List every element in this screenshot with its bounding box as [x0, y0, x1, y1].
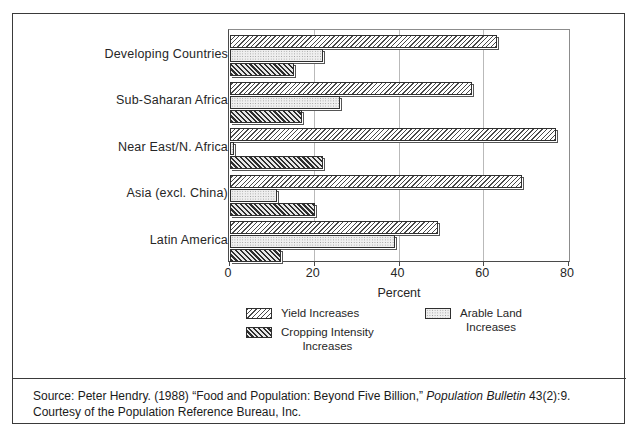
bar	[230, 221, 441, 234]
bar-fill	[230, 175, 522, 188]
source-line-1: Source: Peter Hendry. (1988) “Food and P…	[33, 389, 613, 405]
bar-fill	[230, 96, 340, 109]
bar-group	[229, 128, 569, 171]
bar	[230, 142, 237, 155]
bar-group	[229, 35, 569, 78]
legend-swatch	[246, 327, 272, 338]
bar-fill	[230, 82, 472, 95]
bar-fill	[230, 203, 315, 216]
tick-label-60: 60	[475, 266, 489, 280]
bar-fill	[230, 249, 281, 262]
legend-item: Yield Increases	[246, 306, 374, 320]
legend-item: Cropping Intensity Increases	[246, 325, 374, 353]
bar	[230, 96, 343, 109]
bar-fill	[230, 128, 556, 141]
bar-fill	[230, 221, 438, 234]
bar-group	[229, 221, 569, 264]
source-divider	[13, 378, 626, 379]
source-line-2: Courtesy of the Population Reference Bur…	[33, 405, 613, 421]
legend-label: Arable Land Increases	[460, 306, 522, 334]
category-label: Developing Countries	[18, 47, 228, 61]
bar	[230, 63, 297, 76]
legend-column-right: Arable Land Increases	[425, 306, 522, 339]
source-line-1-suffix: 43(2):9.	[526, 389, 571, 403]
legend-label: Cropping Intensity Increases	[281, 325, 374, 353]
legend-swatch	[425, 308, 451, 319]
bar	[230, 35, 500, 48]
bar-group	[229, 175, 569, 218]
legend-column-left: Yield IncreasesCropping Intensity Increa…	[246, 306, 374, 358]
plot-frame	[228, 29, 570, 262]
bar	[230, 82, 475, 95]
bar-fill	[230, 110, 302, 123]
bar-group	[229, 82, 569, 125]
source-note: Source: Peter Hendry. (1988) “Food and P…	[33, 389, 613, 420]
category-label: Sub-Saharan Africa	[18, 93, 228, 107]
bar	[230, 235, 398, 248]
chart-plot-region: Developing CountriesSub-Saharan AfricaNe…	[13, 14, 626, 304]
bar	[230, 110, 305, 123]
tick-label-20: 20	[306, 266, 320, 280]
bar-fill	[230, 35, 497, 48]
x-axis-title: Percent	[228, 286, 570, 300]
figure-container: Developing CountriesSub-Saharan AfricaNe…	[12, 13, 625, 424]
bar	[230, 203, 318, 216]
bar	[230, 49, 326, 62]
tick-label-80: 80	[560, 266, 574, 280]
tick-label-40: 40	[391, 266, 405, 280]
bar-fill	[230, 156, 323, 169]
bar	[230, 189, 280, 202]
bar-fill	[230, 142, 234, 155]
category-axis-labels: Developing CountriesSub-Saharan AfricaNe…	[15, 14, 228, 264]
legend-swatch	[246, 308, 272, 319]
bar-fill	[230, 63, 294, 76]
legend-item: Arable Land Increases	[425, 306, 522, 334]
tick-label-0: 0	[225, 266, 232, 280]
bar	[230, 175, 525, 188]
category-label: Near East/N. Africa	[18, 140, 228, 154]
bar	[230, 156, 326, 169]
bar-fill	[230, 189, 277, 202]
bar	[230, 249, 284, 262]
bar-fill	[230, 49, 323, 62]
bar	[230, 128, 559, 141]
source-publication-title: Population Bulletin	[426, 389, 525, 403]
bar-fill	[230, 235, 395, 248]
source-line-1-prefix: Source: Peter Hendry. (1988) “Food and P…	[33, 389, 426, 403]
category-label: Asia (excl. China)	[18, 186, 228, 200]
chart-legend: Yield IncreasesCropping Intensity Increa…	[13, 306, 626, 374]
legend-label: Yield Increases	[281, 306, 359, 320]
category-label: Latin America	[18, 233, 228, 247]
